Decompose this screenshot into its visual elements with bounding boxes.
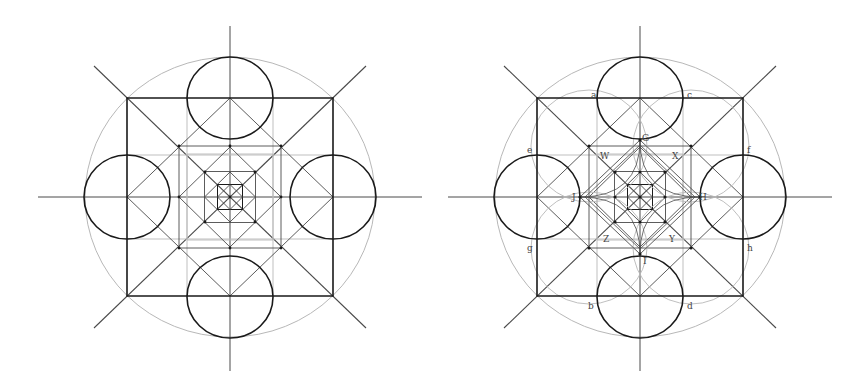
construction-point (254, 171, 257, 174)
point-label-c: c (687, 90, 692, 100)
point-label-X: X (672, 151, 679, 161)
construction-point (229, 196, 232, 199)
construction-point (204, 221, 207, 224)
construction-point (663, 195, 666, 198)
point-label-f: f (747, 145, 751, 155)
construction-point (204, 171, 207, 174)
point-label-Z: Z (603, 234, 609, 244)
construction-point (587, 246, 590, 249)
construction-point (638, 252, 641, 255)
point-label-e: e (527, 145, 532, 155)
construction-point (613, 170, 616, 173)
point-label-b: b (588, 301, 594, 311)
construction-point (280, 196, 283, 199)
construction-point (638, 170, 641, 173)
point-label-Y: Y (668, 234, 676, 244)
construction-point (178, 247, 181, 250)
construction-point (587, 144, 590, 147)
construction-point (280, 145, 283, 148)
construction-point (229, 247, 232, 250)
point-label-a: a (591, 90, 597, 100)
diagram-svg: acefghbdGWXJHZYI (0, 0, 867, 383)
geometric-construction-canvas: acefghbdGWXJHZYI (0, 0, 867, 383)
point-label-I: I (643, 256, 647, 266)
construction-point (613, 195, 616, 198)
point-label-d: d (687, 301, 693, 311)
point-label-H: H (699, 192, 707, 202)
construction-point (280, 247, 283, 250)
construction-point (689, 144, 692, 147)
construction-point (638, 220, 641, 223)
construction-point (663, 170, 666, 173)
construction-point (638, 195, 641, 198)
construction-point (613, 220, 616, 223)
construction-point (254, 221, 257, 224)
construction-point (229, 145, 232, 148)
point-label-h: h (747, 243, 753, 253)
point-label-J: J (571, 192, 576, 202)
construction-point (689, 246, 692, 249)
point-label-W: W (600, 151, 610, 161)
point-label-G: G (642, 133, 649, 143)
construction-point (178, 196, 181, 199)
point-label-g: g (527, 243, 533, 253)
construction-point (663, 220, 666, 223)
construction-point (178, 145, 181, 148)
